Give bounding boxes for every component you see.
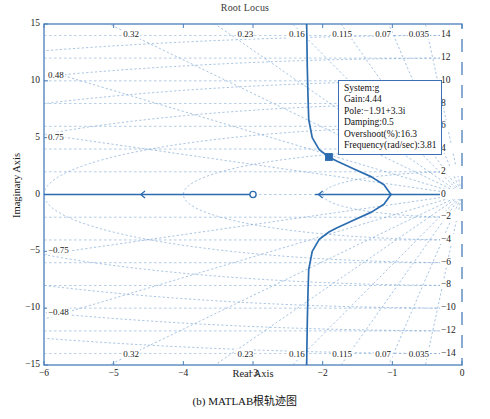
tip-system: System:g xyxy=(344,83,437,94)
damping-label-left: 0.75 xyxy=(47,132,65,142)
tip-pole: Pole:−1.91+3.3i xyxy=(344,106,437,117)
right-tick-label: −8 xyxy=(440,279,465,289)
damping-label-top: 0.16 xyxy=(288,29,306,39)
right-tick-label: −10 xyxy=(440,302,465,312)
x-tick-label: −1 xyxy=(377,368,407,378)
plot-figure: Root Locus Imaginary Axis Real Axis −15−… xyxy=(0,0,490,386)
damping-label-bottom: 0.07 xyxy=(374,349,392,359)
right-tick-label: 14 xyxy=(440,29,465,39)
x-tick-label: 0 xyxy=(447,368,477,378)
damping-label-bottom: 0.16 xyxy=(288,349,306,359)
right-tick-label: 6 xyxy=(440,120,465,130)
data-tip-box[interactable]: System:g Gain:4.44 Pole:−1.91+3.3i Dampi… xyxy=(338,80,442,155)
damping-label-top: 0.07 xyxy=(374,29,392,39)
right-tick-label: 8 xyxy=(440,98,465,108)
figure-caption: (b) MATLAB根轨迹图 xyxy=(0,392,490,408)
damping-label-left: −0.48 xyxy=(47,307,70,317)
x-tick-label: −4 xyxy=(168,368,198,378)
damping-label-left: −0.75 xyxy=(47,245,70,255)
right-tick-label: 4 xyxy=(440,143,465,153)
damping-label-top: 0.23 xyxy=(236,29,254,39)
x-tick-label: −6 xyxy=(29,368,59,378)
damping-label-top: 0.32 xyxy=(122,29,140,39)
y-tick-label: 0 xyxy=(10,189,40,199)
x-tick-label: −5 xyxy=(99,368,129,378)
damping-label-bottom: 0.23 xyxy=(236,349,254,359)
x-tick-label: −2 xyxy=(308,368,338,378)
y-tick-label: −5 xyxy=(10,245,40,255)
damping-label-left: 0.48 xyxy=(47,70,65,80)
damping-label-bottom: 0.32 xyxy=(122,349,140,359)
y-tick-label: 10 xyxy=(10,75,40,85)
plot-canvas xyxy=(0,0,490,386)
y-tick-label: −10 xyxy=(10,302,40,312)
y-tick-label: 5 xyxy=(10,132,40,142)
right-tick-label: 0 xyxy=(440,189,465,199)
y-tick-label: 15 xyxy=(10,18,40,28)
right-tick-label: −14 xyxy=(440,348,465,358)
right-tick-label: 10 xyxy=(440,75,465,85)
right-tick-label: −4 xyxy=(440,234,465,244)
tip-gain: Gain:4.44 xyxy=(344,94,437,105)
tip-overshoot: Overshoot(%):16.3 xyxy=(344,129,437,140)
right-tick-label: 12 xyxy=(440,52,465,62)
tip-damping: Damping:0.5 xyxy=(344,117,437,128)
tip-frequency: Frequency(rad/sec):3.81 xyxy=(344,140,437,151)
right-tick-label: −6 xyxy=(440,257,465,267)
damping-label-bottom: 0.115 xyxy=(331,349,353,359)
damping-label-top: 0.035 xyxy=(408,29,430,39)
right-tick-label: −2 xyxy=(440,211,465,221)
damping-label-bottom: 0.035 xyxy=(408,349,430,359)
x-tick-label: −3 xyxy=(238,368,268,378)
damping-label-top: 0.115 xyxy=(331,29,353,39)
root-locus-figure: Root Locus Imaginary Axis Real Axis −15−… xyxy=(0,0,490,419)
right-tick-label: −12 xyxy=(440,325,465,335)
right-tick-label: 2 xyxy=(440,166,465,176)
